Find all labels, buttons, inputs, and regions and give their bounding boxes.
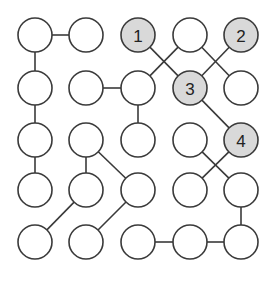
node-circle[interactable]	[18, 71, 52, 105]
empty-node[interactable]	[173, 225, 207, 259]
empty-node[interactable]	[173, 123, 207, 157]
empty-node[interactable]	[18, 225, 52, 259]
puzzle-board: 1234	[0, 0, 277, 284]
empty-node[interactable]	[69, 225, 103, 259]
numbered-node-2[interactable]: 2	[224, 18, 258, 52]
empty-node[interactable]	[69, 18, 103, 52]
empty-node[interactable]	[173, 18, 207, 52]
numbered-node-4[interactable]: 4	[224, 123, 258, 157]
node-circle[interactable]	[173, 18, 207, 52]
node-circle[interactable]	[121, 71, 155, 105]
node-circle[interactable]	[173, 123, 207, 157]
empty-node[interactable]	[121, 225, 155, 259]
empty-node[interactable]	[121, 123, 155, 157]
empty-node[interactable]	[173, 173, 207, 207]
empty-node[interactable]	[224, 71, 258, 105]
empty-node[interactable]	[224, 173, 258, 207]
node-circle[interactable]	[121, 225, 155, 259]
node-number-label: 3	[185, 80, 194, 99]
connector-line	[98, 202, 126, 230]
empty-node[interactable]	[18, 173, 52, 207]
empty-node[interactable]	[18, 71, 52, 105]
node-circle[interactable]	[173, 225, 207, 259]
node-circle[interactable]	[121, 123, 155, 157]
node-circle[interactable]	[18, 173, 52, 207]
node-circle[interactable]	[69, 123, 103, 157]
node-circle[interactable]	[224, 71, 258, 105]
connector-line	[47, 202, 74, 230]
node-circle[interactable]	[69, 18, 103, 52]
node-circle[interactable]	[69, 173, 103, 207]
node-number-label: 2	[236, 27, 245, 46]
empty-node[interactable]	[121, 71, 155, 105]
node-circle[interactable]	[18, 225, 52, 259]
node-circle[interactable]	[69, 71, 103, 105]
node-circle[interactable]	[173, 173, 207, 207]
empty-node[interactable]	[69, 173, 103, 207]
empty-node[interactable]	[18, 18, 52, 52]
empty-node[interactable]	[18, 123, 52, 157]
numbered-node-1[interactable]: 1	[121, 18, 155, 52]
node-circle[interactable]	[224, 225, 258, 259]
node-number-label: 4	[236, 132, 245, 151]
empty-node[interactable]	[69, 123, 103, 157]
connector-line	[202, 100, 229, 128]
empty-node[interactable]	[224, 225, 258, 259]
empty-node[interactable]	[69, 71, 103, 105]
node-circle[interactable]	[18, 18, 52, 52]
node-circle[interactable]	[121, 173, 155, 207]
node-circle[interactable]	[18, 123, 52, 157]
puzzle-diagram: 1234	[0, 0, 277, 284]
empty-node[interactable]	[121, 173, 155, 207]
node-circle[interactable]	[224, 173, 258, 207]
numbered-node-3[interactable]: 3	[173, 71, 207, 105]
node-circle[interactable]	[69, 225, 103, 259]
connector-line	[98, 152, 125, 178]
node-number-label: 1	[133, 27, 142, 46]
